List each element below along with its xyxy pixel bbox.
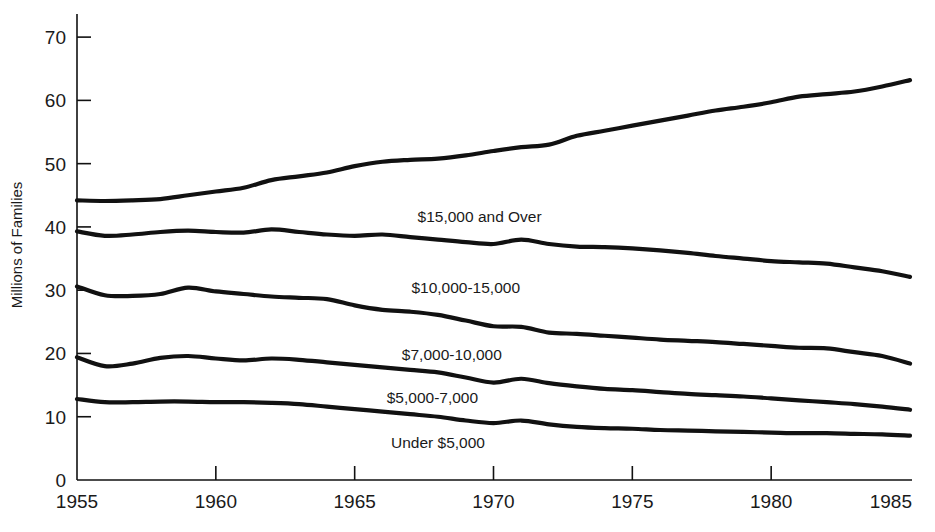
y-tick-label: 20 xyxy=(45,343,66,364)
chart-root: Millions of Families 010203040506070 195… xyxy=(0,0,935,532)
y-tick-label: 50 xyxy=(45,154,66,175)
x-tick-label: 1980 xyxy=(750,491,792,512)
series-line-1 xyxy=(77,229,910,276)
x-tick-label: 1985 xyxy=(870,491,912,512)
y-axis-ticks: 010203040506070 xyxy=(45,27,91,491)
series-label-3: $5,000-7,000 xyxy=(387,389,479,406)
x-tick-label: 1975 xyxy=(611,491,653,512)
series-label-4: Under $5,000 xyxy=(391,434,485,451)
y-tick-label: 60 xyxy=(45,90,66,111)
series-lines-group xyxy=(77,80,910,436)
y-tick-label: 40 xyxy=(45,217,66,238)
x-tick-label: 1965 xyxy=(334,491,376,512)
y-axis-title: Millions of Families xyxy=(8,182,25,309)
series-label-0: $15,000 and Over xyxy=(418,208,542,225)
income-distribution-line-chart: Millions of Families 010203040506070 195… xyxy=(0,0,935,532)
x-axis-ticks: 1955196019651970197519801985 xyxy=(56,466,912,512)
series-line-4 xyxy=(77,399,910,436)
y-tick-label: 10 xyxy=(45,407,66,428)
y-axis-title-group: Millions of Families xyxy=(8,182,25,309)
x-tick-label: 1955 xyxy=(56,491,98,512)
series-label-1: $10,000-15,000 xyxy=(411,279,520,296)
x-tick-label: 1960 xyxy=(195,491,237,512)
series-line-0 xyxy=(77,80,910,201)
series-label-2: $7,000-10,000 xyxy=(402,346,502,363)
y-tick-label: 30 xyxy=(45,280,66,301)
y-tick-label: 0 xyxy=(55,470,66,491)
x-tick-label: 1970 xyxy=(472,491,514,512)
y-tick-label: 70 xyxy=(45,27,66,48)
